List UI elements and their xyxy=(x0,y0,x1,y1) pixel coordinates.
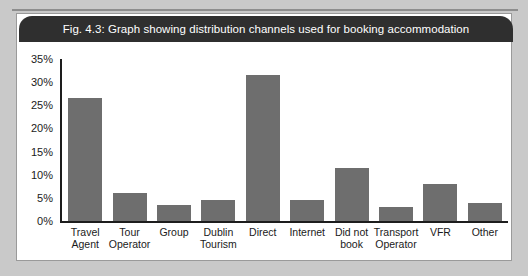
x-axis-label: TourOperator xyxy=(107,226,151,250)
bar-slot xyxy=(285,59,329,221)
y-axis-tick-labels: 0%5%10%15%20%25%30%35% xyxy=(22,50,56,222)
figure-page: Fig. 4.3: Graph showing distribution cha… xyxy=(0,0,528,276)
x-axis-label: Group xyxy=(152,226,196,238)
page-top-rule xyxy=(12,9,518,11)
bar-slot xyxy=(418,59,462,221)
bar-series xyxy=(63,59,507,221)
bar[interactable] xyxy=(468,203,502,222)
y-axis-tick-0pct: 0% xyxy=(37,216,53,227)
bar-slot xyxy=(329,59,373,221)
figure-caption-text: Fig. 4.3: Graph showing distribution cha… xyxy=(63,23,470,35)
x-axis-category-labels: TravelAgentTourOperatorGroupDublinTouris… xyxy=(63,226,507,254)
y-axis-tick-35pct: 35% xyxy=(31,54,53,65)
bar[interactable] xyxy=(201,200,235,221)
x-axis-line xyxy=(60,221,508,223)
bar-slot xyxy=(152,59,196,221)
y-axis-tick-30pct: 30% xyxy=(31,77,53,88)
y-axis-tick-20pct: 20% xyxy=(31,123,53,134)
chart-plot-area: 0%5%10%15%20%25%30%35% TravelAgentTourOp… xyxy=(22,50,508,255)
y-axis-tick-5pct: 5% xyxy=(37,193,53,204)
x-axis-label: Internet xyxy=(285,226,329,238)
bar[interactable] xyxy=(335,168,369,221)
bar[interactable] xyxy=(423,184,457,221)
x-axis-label: Other xyxy=(463,226,507,238)
bar-slot xyxy=(63,59,107,221)
bar-slot xyxy=(463,59,507,221)
x-axis-label: DublinTourism xyxy=(196,226,240,250)
bar-slot xyxy=(196,59,240,221)
bar-slot xyxy=(374,59,418,221)
y-axis-tick-15pct: 15% xyxy=(31,147,53,158)
bar[interactable] xyxy=(157,205,191,221)
bar[interactable] xyxy=(68,98,102,221)
x-axis-label: Did notbook xyxy=(329,226,373,250)
y-axis-line xyxy=(60,59,62,222)
x-axis-label: VFR xyxy=(418,226,462,238)
y-axis-tick-25pct: 25% xyxy=(31,100,53,111)
bar-slot xyxy=(107,59,151,221)
x-axis-label: Direct xyxy=(241,226,285,238)
bar[interactable] xyxy=(113,193,147,221)
x-axis-label: TravelAgent xyxy=(63,226,107,250)
bar[interactable] xyxy=(379,207,413,221)
y-axis-tick-10pct: 10% xyxy=(31,170,53,181)
figure-caption-bar: Fig. 4.3: Graph showing distribution cha… xyxy=(19,16,513,42)
bar[interactable] xyxy=(290,200,324,221)
bar-slot xyxy=(241,59,285,221)
bar[interactable] xyxy=(246,75,280,221)
x-axis-label: TransportOperator xyxy=(374,226,418,250)
